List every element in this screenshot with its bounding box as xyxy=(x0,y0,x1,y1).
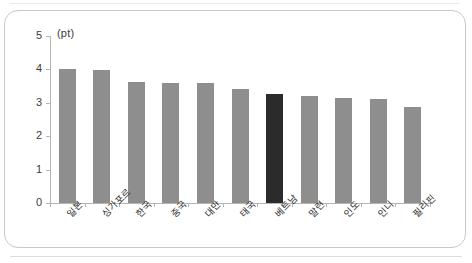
bar xyxy=(128,82,145,203)
bar xyxy=(59,69,76,203)
chart-screenshot: (pt) 012345 일본싱가포르한국중국대만태국베트남말련인도인니필리핀 xyxy=(0,0,472,263)
bar xyxy=(232,89,249,203)
bar xyxy=(162,83,179,203)
y-axis-tick xyxy=(46,69,51,70)
bar xyxy=(301,96,318,203)
y-axis-tick-label: 0 xyxy=(28,196,42,208)
y-axis-unit-label: (pt) xyxy=(57,27,74,39)
y-axis-tick xyxy=(46,36,51,37)
bar xyxy=(404,107,421,203)
y-axis-tick xyxy=(46,170,51,171)
bar xyxy=(266,94,283,203)
bar-chart-plot: (pt) 012345 일본싱가포르한국중국대만태국베트남말련인도인니필리핀 xyxy=(0,0,472,263)
y-axis-tick xyxy=(46,103,51,104)
y-axis-tick-label: 1 xyxy=(28,163,42,175)
y-axis-tick-label: 4 xyxy=(28,62,42,74)
x-axis-tick xyxy=(50,203,51,207)
y-axis-tick-label: 2 xyxy=(28,129,42,141)
y-axis-tick-label: 5 xyxy=(28,29,42,41)
y-axis-tick-label: 3 xyxy=(28,96,42,108)
bar xyxy=(370,99,387,203)
bar xyxy=(93,70,110,203)
bar xyxy=(335,98,352,203)
y-axis-line xyxy=(50,36,51,204)
y-axis-tick xyxy=(46,136,51,137)
bar xyxy=(197,83,214,203)
